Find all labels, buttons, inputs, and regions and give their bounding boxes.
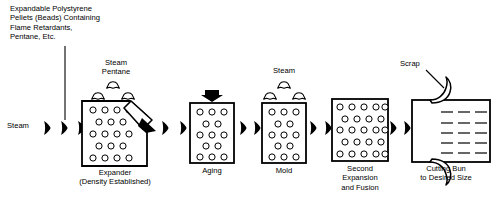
process-flow-diagram: Expandable Polystyrene Pellets (Beads) C… (0, 0, 504, 201)
steam-inlet-label: Steam (7, 121, 29, 130)
stage-mold (262, 103, 306, 163)
stage-caption-mold: Mold (258, 166, 310, 175)
scrap-leader-line (426, 70, 444, 88)
stage-caption-cutting-bun: Cutting Bun to Desired Size (404, 164, 488, 183)
stage-second-expansion (332, 99, 388, 161)
mold-vent-puffs (264, 82, 306, 100)
scrap-piece-top-icon (430, 77, 451, 103)
raw-material-feed-label: Expandable Polystyrene Pellets (Beads) C… (10, 4, 100, 42)
stage-expander (82, 101, 156, 166)
stage-aging (190, 90, 234, 163)
stage-caption-aging: Aging (186, 166, 238, 175)
stage-caption-second-expansion: Second Expansion and Fusion (324, 164, 396, 192)
expander-vent-puffs (92, 82, 135, 100)
aging-top-arrow-icon (201, 90, 223, 102)
stage-caption-expander: Expander (Density Established) (63, 168, 167, 187)
mold-vent-label: Steam (256, 66, 312, 75)
expander-vent-label: Steam Pentane (86, 58, 146, 77)
scrap-callout-label: Scrap (400, 59, 420, 68)
